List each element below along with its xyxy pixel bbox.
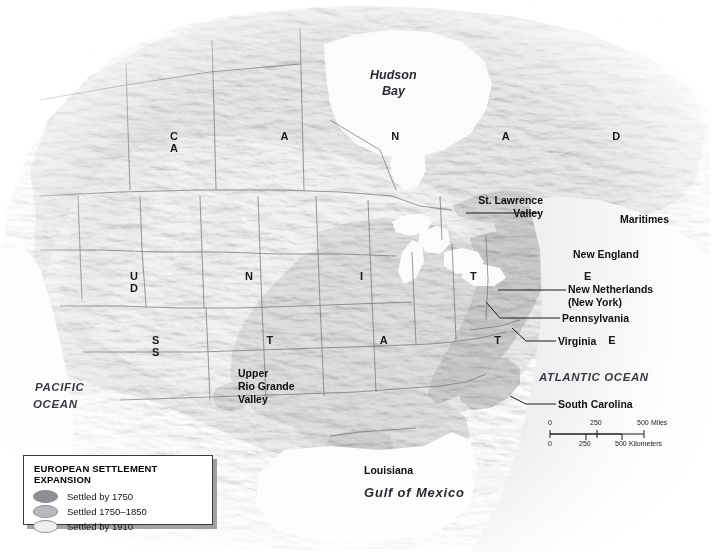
legend-label-settled-by-1910: Settled by 1910 <box>67 521 133 532</box>
legend-swatch-settled-1750-1850 <box>33 505 58 518</box>
scale-miles-unit: Miles <box>651 419 667 426</box>
country-label-states: S T A T E S <box>152 334 712 358</box>
upper-rio-grande-valley-label-line2: Rio Grande <box>238 380 295 392</box>
new-england-label: New England <box>573 248 639 260</box>
scale-miles-tick-500: 500 <box>637 419 649 426</box>
legend-swatch-settled-by-1750 <box>33 490 58 503</box>
upper-rio-grande-valley-label-line3: Valley <box>238 393 268 405</box>
pacific-ocean-label-line2: OCEAN <box>33 398 78 410</box>
scale-bar: 0 250 500 Miles 0 250 500 Kilometers <box>548 421 668 451</box>
legend-title: EUROPEAN SETTLEMENT EXPANSION <box>34 463 204 485</box>
map-container: C A N A D A U N I T E D S T A T E S Huds… <box>0 0 712 552</box>
pennsylvania-label: Pennsylvania <box>562 312 629 324</box>
scale-km-unit: Kilometers <box>629 440 662 447</box>
new-netherlands-label-line2: (New York) <box>568 296 622 308</box>
legend-swatch-settled-by-1910 <box>33 520 58 533</box>
hudson-bay-label-line2: Bay <box>382 84 405 98</box>
maritimes-label: Maritimes <box>620 213 669 225</box>
louisiana-label: Louisiana <box>364 464 413 476</box>
upper-rio-grande-valley-label-line1: Upper <box>238 367 268 379</box>
scale-miles-tick-0: 0 <box>548 419 552 426</box>
scale-km-tick-250: 250 <box>579 440 591 447</box>
virginia-label: Virginia <box>558 335 596 347</box>
scale-km-tick-500: 500 <box>615 440 627 447</box>
south-carolina-label: South Carolina <box>558 398 633 410</box>
legend-label-settled-1750-1850: Settled 1750–1850 <box>67 506 147 517</box>
map-legend: EUROPEAN SETTLEMENT EXPANSION Settled by… <box>23 455 213 525</box>
st-lawrence-valley-label-line2: Valley <box>418 207 543 219</box>
scale-km-tick-0: 0 <box>548 440 552 447</box>
st-lawrence-valley-label-line1: St. Lawrence <box>418 194 543 206</box>
new-netherlands-label-line1: New Netherlands <box>568 283 653 295</box>
scale-miles-tick-250: 250 <box>590 419 602 426</box>
gulf-of-mexico-label: Gulf of Mexico <box>364 485 465 500</box>
legend-item-settled-by-1750: Settled by 1750 <box>33 489 204 503</box>
legend-label-settled-by-1750: Settled by 1750 <box>67 491 133 502</box>
country-label-canada: C A N A D A <box>170 130 712 154</box>
legend-item-settled-1750-1850: Settled 1750–1850 <box>33 504 204 518</box>
hudson-bay-label-line1: Hudson <box>370 68 417 82</box>
atlantic-ocean-label: ATLANTIC OCEAN <box>539 371 649 383</box>
legend-item-settled-by-1910: Settled by 1910 <box>33 519 204 533</box>
pacific-ocean-label-line1: PACIFIC <box>35 381 84 393</box>
